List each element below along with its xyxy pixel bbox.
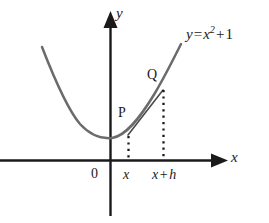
tick-xh-operator: + <box>158 167 169 182</box>
equation-constant: 1 <box>225 26 233 42</box>
x-axis-arrowhead <box>211 154 228 168</box>
origin-label: 0 <box>91 167 98 181</box>
equation-equals: = <box>193 26 203 42</box>
tick-label-x-plus-h: x+h <box>152 168 176 182</box>
point-label-q: Q <box>147 68 157 82</box>
tick-label-x: x <box>123 168 129 182</box>
point-label-p: P <box>118 106 126 120</box>
equation-base: x <box>203 26 210 42</box>
x-axis-label: x <box>231 150 238 165</box>
parabola-secant-figure: y=x2+1 y x 0 x x+h P Q <box>0 0 269 223</box>
tick-xh-term: h <box>169 167 176 182</box>
y-axis-label: y <box>116 6 123 21</box>
equation-plus: + <box>215 26 225 42</box>
secant-line-pq <box>128 90 163 135</box>
equation-lhs: y <box>186 26 193 42</box>
equation-label: y=x2+1 <box>186 25 233 42</box>
